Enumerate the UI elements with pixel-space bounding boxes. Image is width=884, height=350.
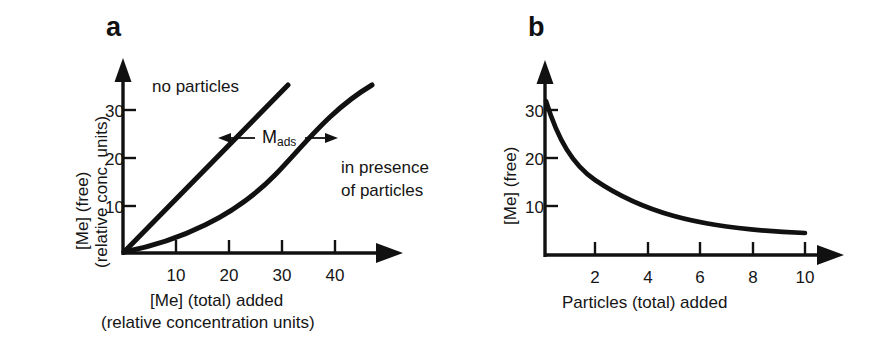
panel-b-plot [440, 0, 884, 350]
panel-b-yaxis-arrowhead [537, 60, 554, 84]
figure-container: a [Me] (free) (relative conc. units) 10 … [0, 0, 884, 350]
panel-b-xaxis-arrowhead [817, 245, 844, 265]
panel-a-mads-arrow-left-head [218, 133, 231, 143]
panel-a-plot [0, 0, 450, 350]
panel-a-series-in-presence-of-particles [124, 85, 372, 252]
panel-b-series-me-free [546, 101, 805, 233]
panel-a-yaxis-arrowhead [115, 58, 132, 82]
panel-a-xaxis-arrowhead [376, 243, 403, 263]
panel-a-mads-arrow-right-head [325, 133, 338, 143]
panel-a: a [Me] (free) (relative conc. units) 10 … [0, 0, 450, 350]
panel-b: b [Me] (free) 10 20 30 2 4 6 8 10 Partic… [440, 0, 884, 350]
